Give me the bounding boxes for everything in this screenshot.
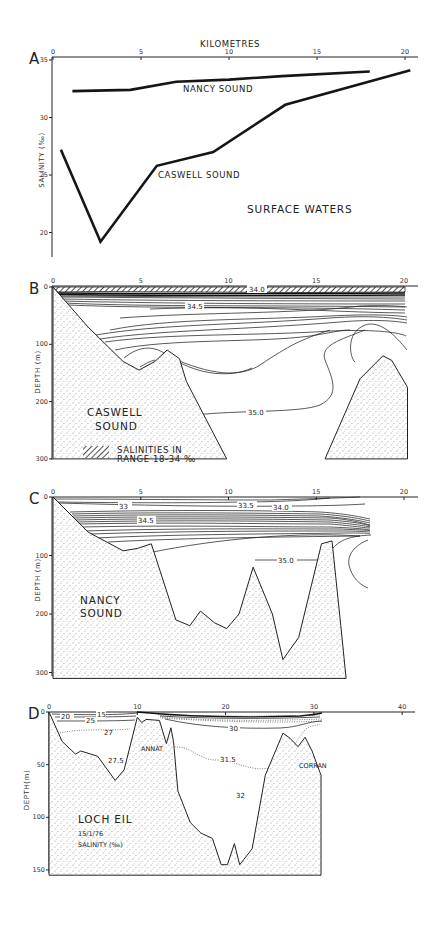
isohaline-label-33: 33 — [119, 503, 128, 511]
y-tick-label: 0 — [41, 708, 45, 716]
seabed-outer-sill-caswell — [325, 356, 408, 459]
panel-letter-d: D — [28, 705, 40, 723]
x-tick-label: 15 — [312, 277, 320, 285]
panel-c: C 05101520 0100200300 DEPTH (m) — [29, 488, 418, 678]
series-label-caswell: CASWELL SOUND — [158, 170, 240, 180]
panel-letter-a: A — [29, 50, 40, 68]
x-tick-label: 15 — [313, 48, 321, 56]
isohaline-label-33-5: 33.5 — [238, 502, 254, 510]
panel-a: A KILOMETRES 05101520 35302520 SALINITY … — [29, 39, 418, 257]
section-title-caswell-line2: SOUND — [95, 420, 138, 432]
isohaline-label-35-0: 35.0 — [278, 557, 294, 565]
panel-d: D 010203040 050100150 DEPTH(m) 20 15 25 … — [23, 703, 415, 875]
y-tick-label: 100 — [36, 340, 48, 348]
isohaline-label-27-5: 27.5 — [108, 757, 124, 765]
x-tick-label: 10 — [225, 48, 233, 56]
place-label-annat: ANNAT — [141, 745, 163, 753]
y-tick-label: 20 — [40, 229, 48, 237]
x-tick-label: 10 — [133, 703, 141, 711]
series-caswell-sound — [61, 70, 410, 241]
x-ticks-c: 05101520 — [51, 488, 408, 500]
x-tick-label: 15 — [312, 488, 320, 496]
x-tick-label: 40 — [398, 703, 406, 711]
x-tick-label: 0 — [47, 703, 51, 711]
isohaline-label-15: 15 — [97, 711, 106, 719]
x-tick-label: 0 — [51, 488, 55, 496]
x-tick-label: 5 — [139, 48, 143, 56]
y-axis-title-d: DEPTH(m) — [23, 770, 31, 811]
seabed-loch-eil — [49, 712, 321, 875]
y-axis-title-b: DEPTH (m) — [34, 350, 42, 393]
y-tick-label: 0 — [44, 283, 48, 291]
x-tick-label: 10 — [224, 488, 232, 496]
x-tick-label: 20 — [221, 703, 229, 711]
y-tick-label: 35 — [40, 56, 48, 64]
x-tick-label: 5 — [139, 488, 143, 496]
isohaline-label-34-0: 34.0 — [273, 504, 289, 512]
series-label-nancy: NANCY SOUND — [183, 84, 253, 94]
y-ticks-d: 050100150 — [33, 708, 49, 874]
y-tick-label: 150 — [33, 866, 45, 874]
x-tick-label: 20 — [401, 48, 409, 56]
y-axis-title-c: DEPTH (m) — [34, 558, 42, 601]
y-tick-label: 300 — [36, 455, 48, 463]
surface-hatch-layer — [53, 287, 405, 293]
section-date: 15/1/76 — [78, 830, 103, 838]
y-tick-label: 30 — [40, 114, 48, 122]
y-axis-title-a: SALINITY (‰) — [38, 132, 46, 187]
isohaline-label-34-5: 34.5 — [187, 303, 203, 311]
salinity-figure: A KILOMETRES 05101520 35302520 SALINITY … — [0, 0, 442, 930]
section-caption: SALINITY (‰) — [78, 841, 123, 849]
isohaline-label-27: 27 — [104, 729, 113, 737]
isohaline-label-25: 25 — [86, 717, 95, 725]
x-tick-label: 0 — [51, 277, 55, 285]
x-tick-label: 30 — [310, 703, 318, 711]
section-title-loch-eil: LOCH EIL — [78, 813, 132, 825]
x-ticks-a: 05101520 — [51, 48, 409, 60]
section-title-nancy-line1: NANCY — [80, 594, 120, 606]
seabed-caswell — [53, 287, 227, 459]
y-tick-label: 200 — [36, 610, 48, 618]
x-tick-label: 20 — [400, 488, 408, 496]
chart-title-a: SURFACE WATERS — [247, 203, 352, 215]
section-title-caswell-line1: CASWELL — [87, 406, 143, 418]
isohaline-label-32: 32 — [236, 792, 245, 800]
isohaline-label-34-0: 34.0 — [249, 286, 265, 294]
place-label-corran: CORRAN — [299, 762, 327, 770]
panel-letter-b: B — [29, 280, 39, 298]
isohaline-label-34-5: 34.5 — [138, 517, 154, 525]
y-tick-label: 300 — [36, 669, 48, 677]
panel-letter-c: C — [29, 490, 39, 508]
x-tick-label: 5 — [139, 277, 143, 285]
y-tick-label: 100 — [33, 813, 45, 821]
section-title-nancy-line2: SOUND — [80, 607, 123, 619]
x-tick-label: 20 — [400, 277, 408, 285]
legend-label-line2: RANGE 18-34 ‰ — [117, 454, 196, 464]
legend-hatch-swatch — [83, 446, 109, 458]
isohaline-label-31-5: 31.5 — [220, 756, 236, 764]
y-tick-label: 50 — [37, 761, 45, 769]
isohaline-label-30: 30 — [229, 725, 238, 733]
y-tick-label: 200 — [36, 398, 48, 406]
y-tick-label: 0 — [44, 493, 48, 501]
x-tick-label: 0 — [51, 48, 55, 56]
panel-b: B 05101520 0100200300 DEPTH (m) — [29, 277, 418, 464]
isohaline-label-20: 20 — [61, 713, 70, 721]
isohaline-label-35-0: 35.0 — [248, 409, 264, 417]
x-tick-label: 10 — [224, 277, 232, 285]
